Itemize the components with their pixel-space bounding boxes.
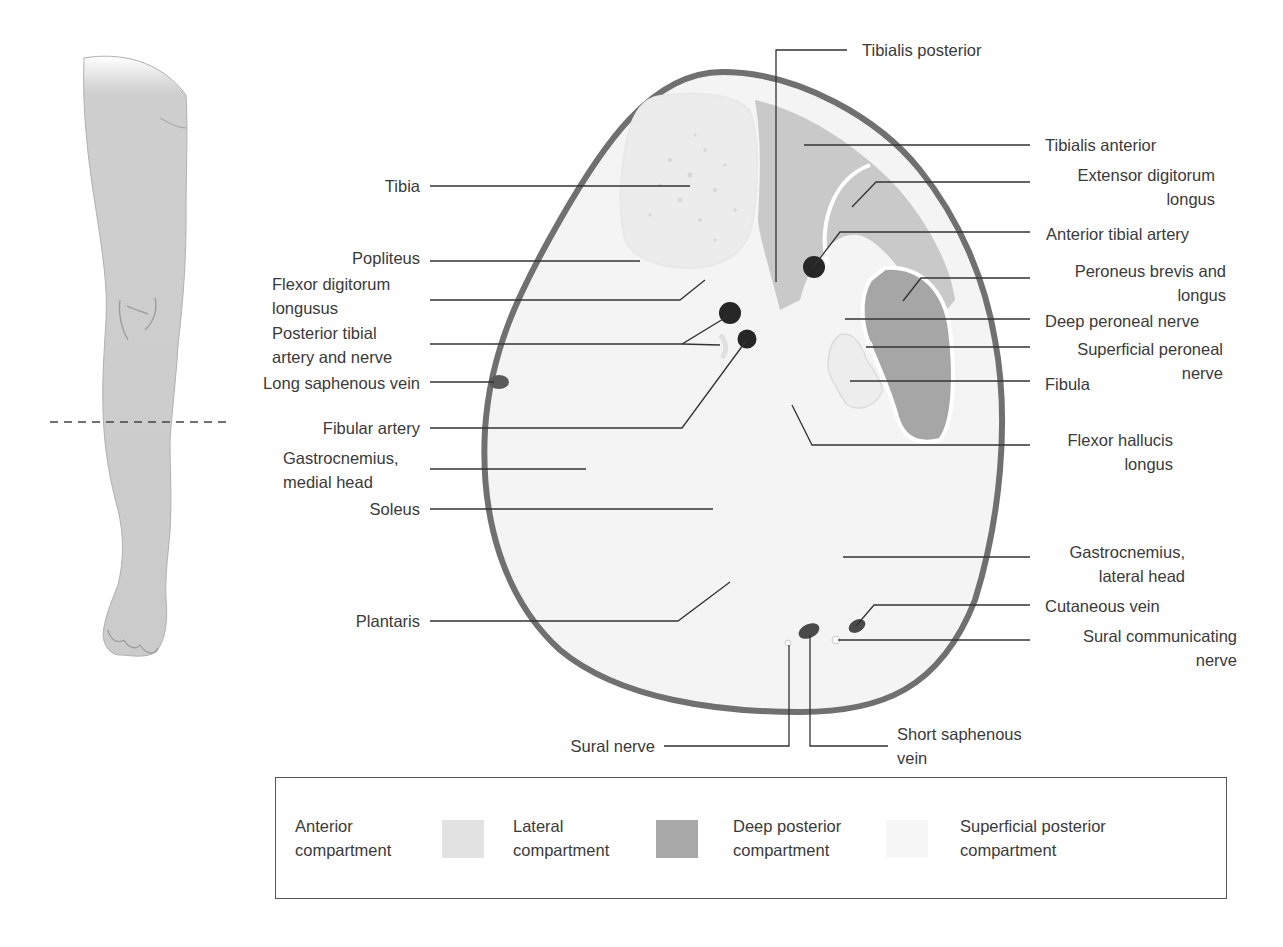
legend-swatch-anterior — [442, 820, 484, 858]
label-short-saphenous-vein: Short saphenous vein — [897, 722, 1022, 770]
label-flexor-hallucis-longus: Flexor hallucis longus — [1068, 428, 1173, 476]
label-deep-peroneal-nerve: Deep peroneal nerve — [1045, 309, 1199, 333]
legend-swatch-lateral — [656, 820, 698, 858]
sural-nerve-spot — [785, 640, 791, 646]
label-sural-communicating-nerve: Sural communicating nerve — [1083, 624, 1237, 672]
anterior-tibial-artery-vessel — [803, 256, 825, 278]
label-posterior-tibial-artery-nerve: Posterior tibial artery and nerve — [272, 321, 392, 369]
label-anterior-tibial-artery: Anterior tibial artery — [1046, 222, 1189, 246]
label-flexor-digitorum-longusus: Flexor digitorum longusus — [272, 272, 390, 320]
label-gastrocnemius-lateral-head: Gastrocnemius, lateral head — [1069, 540, 1185, 588]
posterior-tibial-artery-vessel — [719, 302, 741, 324]
legend: Anterior compartment Lateral compartment… — [275, 777, 1227, 899]
legend-item-anterior: Anterior compartment — [295, 814, 391, 862]
label-gastrocnemius-medial-head: Gastrocnemius, medial head — [283, 446, 399, 494]
fibular-artery-vessel — [738, 330, 757, 349]
label-long-saphenous-vein: Long saphenous vein — [263, 371, 420, 395]
legend-item-deep-posterior: Deep posterior compartment — [733, 814, 841, 862]
label-popliteus: Popliteus — [352, 246, 420, 270]
label-peroneus-brevis-longus: Peroneus brevis and longus — [1075, 259, 1226, 307]
label-soleus: Soleus — [370, 497, 420, 521]
label-tibia: Tibia — [385, 174, 420, 198]
legend-item-superficial-posterior: Superficial posterior compartment — [960, 814, 1106, 862]
label-fibula: Fibula — [1045, 372, 1090, 396]
legend-item-lateral: Lateral compartment — [513, 814, 609, 862]
label-cutaneous-vein: Cutaneous vein — [1045, 594, 1160, 618]
diagram-canvas: Tibia Popliteus Flexor digitorum longusu… — [0, 0, 1283, 947]
label-fibular-artery: Fibular artery — [323, 416, 420, 440]
label-tibialis-anterior: Tibialis anterior — [1045, 133, 1156, 157]
label-sural-nerve: Sural nerve — [571, 734, 655, 758]
label-extensor-digitorum-longus: Extensor digitorum longus — [1077, 163, 1215, 211]
legend-swatch-deep-posterior — [886, 820, 928, 858]
label-plantaris: Plantaris — [356, 609, 420, 633]
label-tibialis-posterior: Tibialis posterior — [862, 38, 982, 62]
tibia-bone — [621, 94, 757, 268]
label-superficial-peroneal-nerve: Superficial peroneal nerve — [1077, 337, 1223, 385]
